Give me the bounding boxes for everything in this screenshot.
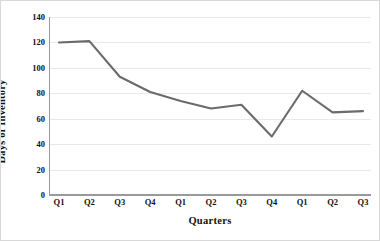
x-tick-label: Q1 bbox=[175, 197, 186, 207]
gridline bbox=[49, 195, 371, 196]
y-tick-label: 100 bbox=[32, 63, 45, 73]
x-axis-tick-labels: Q1Q2Q3Q4Q1Q2Q3Q4Q1Q2Q3 bbox=[49, 197, 371, 213]
x-tick-label: Q4 bbox=[266, 197, 277, 207]
x-tick-label: Q2 bbox=[84, 197, 95, 207]
plot-area bbox=[49, 17, 371, 195]
x-tick-label: Q3 bbox=[358, 197, 369, 207]
x-axis-title: Quarters bbox=[49, 215, 371, 226]
y-tick-label: 40 bbox=[37, 139, 46, 149]
x-tick-label: Q1 bbox=[54, 197, 65, 207]
y-tick-label: 80 bbox=[37, 88, 46, 98]
line-series bbox=[49, 17, 371, 195]
x-tick-label: Q3 bbox=[236, 197, 247, 207]
y-tick-label: 0 bbox=[41, 190, 45, 200]
y-tick-label: 140 bbox=[32, 12, 45, 22]
y-tick-label: 20 bbox=[37, 165, 46, 175]
x-tick-label: Q4 bbox=[145, 197, 156, 207]
chart-figure: Days of Inventory 020406080100120140 Q1Q… bbox=[0, 0, 380, 241]
x-tick-label: Q2 bbox=[206, 197, 217, 207]
x-tick-label: Q3 bbox=[114, 197, 125, 207]
series-polyline bbox=[59, 41, 363, 136]
x-tick-label: Q1 bbox=[297, 197, 308, 207]
y-tick-label: 120 bbox=[32, 37, 45, 47]
y-axis-tick-labels: 020406080100120140 bbox=[19, 17, 45, 195]
y-tick-label: 60 bbox=[37, 114, 46, 124]
x-tick-label: Q2 bbox=[327, 197, 338, 207]
